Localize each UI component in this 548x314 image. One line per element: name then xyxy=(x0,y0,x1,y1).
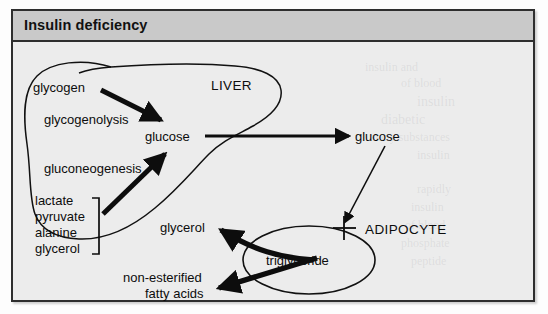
substrate-lactate: lactate xyxy=(35,193,73,209)
substrate-bracket xyxy=(92,198,99,254)
process-label-gluconeogenesis: gluconeogenesis xyxy=(44,161,142,177)
substrate-alanine: alanine xyxy=(35,225,77,241)
liver-outline-tail xyxy=(79,67,111,73)
node-label-triglyceride: triglyceride xyxy=(266,253,329,269)
node-label-nefa-line1: non-esterified xyxy=(123,270,202,286)
figure-root: Insulin deficiency insulin and of blood … xyxy=(0,0,548,314)
uptake-block-cross-icon xyxy=(333,216,356,240)
compartment-label-liver: LIVER xyxy=(211,78,252,94)
node-label-glucose-liver: glucose xyxy=(145,129,190,145)
node-label-glycogen: glycogen xyxy=(33,80,85,96)
edge-glucose-uptake-arrow xyxy=(345,146,385,222)
panel-header: Insulin deficiency xyxy=(13,11,533,42)
node-label-nefa-line2: fatty acids xyxy=(145,286,204,302)
node-label-glucose-blood: glucose xyxy=(355,129,400,145)
process-label-glycogenolysis: glycogenolysis xyxy=(44,112,129,128)
substrate-glycerol: glycerol xyxy=(35,241,80,257)
node-label-glycerol: glycerol xyxy=(160,220,205,236)
compartment-label-adipocyte: ADIPOCYTE xyxy=(365,222,447,238)
substrate-pyruvate: pyruvate xyxy=(35,209,85,225)
diagram-canvas: insulin and of blood insulin diabetic ma… xyxy=(13,42,533,300)
page-title: Insulin deficiency xyxy=(24,17,147,33)
insulin-deficiency-panel: Insulin deficiency insulin and of blood … xyxy=(11,9,535,302)
